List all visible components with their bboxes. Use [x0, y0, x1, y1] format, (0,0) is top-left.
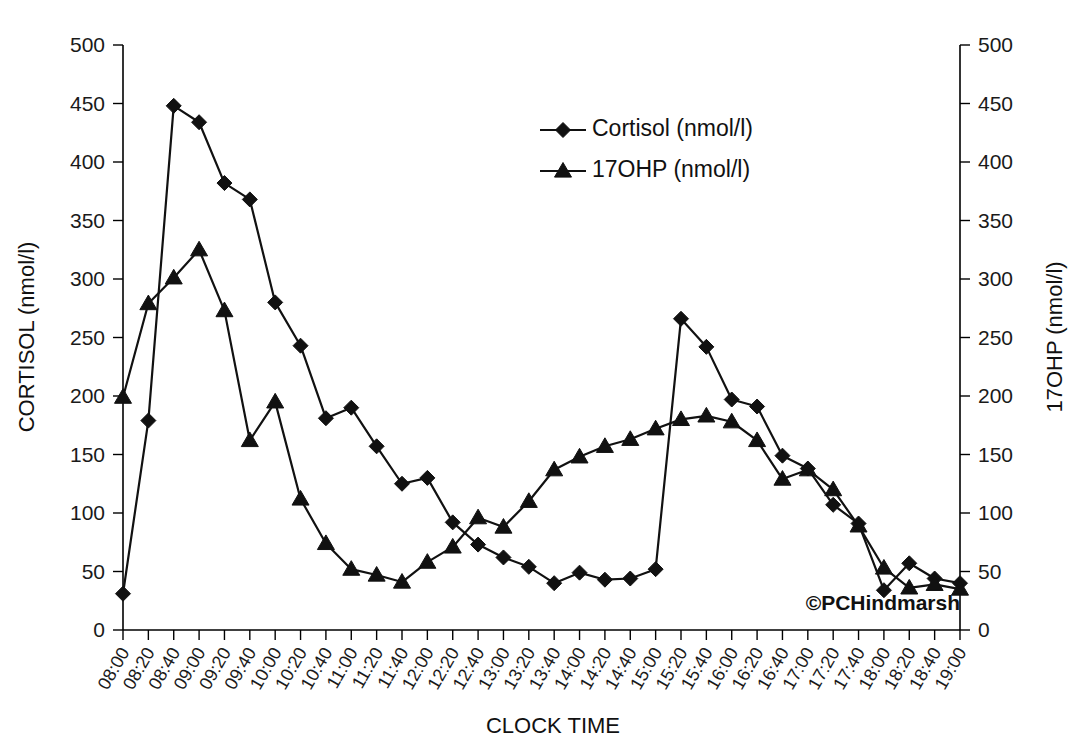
diamond-marker [242, 192, 257, 207]
triangle-marker [317, 535, 334, 550]
diamond-marker [293, 338, 308, 353]
left-tick-label: 350 [70, 209, 105, 232]
diamond-marker [420, 470, 435, 485]
left-tick-label: 200 [70, 384, 105, 407]
right-axis-title: 17OHP (nmol/l) [1042, 261, 1067, 412]
diamond-marker [623, 571, 638, 586]
diamond-marker [724, 392, 739, 407]
left-tick-label: 50 [82, 560, 105, 583]
legend-label-1: Cortisol (nmol/l) [592, 115, 753, 141]
right-tick-label: 300 [978, 267, 1013, 290]
triangle-marker [267, 393, 284, 408]
right-tick-label: 350 [978, 209, 1013, 232]
diamond-marker [496, 550, 511, 565]
legend-label-2: 17OHP (nmol/l) [592, 156, 750, 182]
right-tick-label: 50 [978, 560, 1001, 583]
right-tick-label: 100 [978, 501, 1013, 524]
diamond-marker [217, 176, 232, 191]
diamond-marker [395, 476, 410, 491]
diamond-marker [344, 400, 359, 415]
triangle-marker [698, 407, 715, 422]
diamond-marker [826, 497, 841, 512]
series-line-2 [123, 250, 960, 589]
triangle-marker [241, 432, 258, 447]
left-tick-label: 250 [70, 326, 105, 349]
diamond-marker [318, 411, 333, 426]
left-tick-label: 100 [70, 501, 105, 524]
diamond-marker [141, 413, 156, 428]
diamond-marker [166, 98, 181, 113]
left-tick-label: 400 [70, 150, 105, 173]
diamond-marker [572, 565, 587, 580]
triangle-marker [622, 431, 639, 446]
chart-figure: 050100150200250300350400450500 050100150… [0, 0, 1085, 745]
right-tick-label: 450 [978, 92, 1013, 115]
right-axis-ticks: 050100150200250300350400450500 [960, 33, 1013, 641]
series-2 [115, 241, 969, 595]
right-tick-label: 150 [978, 443, 1013, 466]
right-tick-label: 500 [978, 33, 1013, 56]
left-axis-title: CORTISOL (nmol/l) [14, 242, 39, 433]
right-tick-label: 0 [978, 618, 990, 641]
triangle-marker [875, 559, 892, 574]
x-axis-title: CLOCK TIME [486, 713, 620, 738]
right-tick-label: 200 [978, 384, 1013, 407]
triangle-marker [546, 461, 563, 476]
diamond-marker [521, 559, 536, 574]
triangle-marker [419, 554, 436, 569]
data-series-layer [115, 98, 969, 601]
triangle-marker [825, 481, 842, 496]
triangle-marker [216, 302, 233, 317]
copyright-watermark: ©PCHindmarsh [806, 591, 960, 614]
diamond-marker [597, 572, 612, 587]
right-tick-label: 400 [978, 150, 1013, 173]
cortisol-17ohp-line-chart: 050100150200250300350400450500 050100150… [0, 0, 1085, 745]
legend-triangle-marker [555, 163, 572, 178]
diamond-marker [648, 562, 663, 577]
triangle-marker [749, 432, 766, 447]
triangle-marker [470, 509, 487, 524]
series-1 [116, 98, 968, 601]
diamond-marker [750, 399, 765, 414]
left-tick-label: 0 [93, 618, 105, 641]
diamond-marker [547, 576, 562, 591]
diamond-marker [775, 448, 790, 463]
left-tick-label: 300 [70, 267, 105, 290]
diamond-marker [268, 295, 283, 310]
triangle-marker [191, 241, 208, 256]
left-tick-label: 500 [70, 33, 105, 56]
chart-legend: Cortisol (nmol/l)17OHP (nmol/l) [540, 115, 753, 182]
right-tick-label: 250 [978, 326, 1013, 349]
left-tick-label: 450 [70, 92, 105, 115]
left-tick-label: 150 [70, 443, 105, 466]
diamond-marker [116, 586, 131, 601]
diamond-marker [192, 115, 207, 130]
x-axis-ticks: 08:0008:2008:4009:0009:2009:4010:0010:20… [94, 630, 971, 693]
legend-diamond-marker [556, 123, 571, 138]
triangle-marker [292, 490, 309, 505]
diamond-marker [369, 439, 384, 454]
triangle-marker [571, 448, 588, 463]
series-line-1 [123, 106, 960, 594]
left-axis-ticks: 050100150200250300350400450500 [70, 33, 123, 641]
